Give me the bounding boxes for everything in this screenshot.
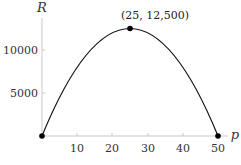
peak-label: (25, 12,500) <box>121 9 189 22</box>
ytick-5000: 5000 <box>10 87 38 100</box>
point-origin <box>39 133 45 139</box>
xtick-50: 50 <box>211 142 225 155</box>
xtick-20: 20 <box>105 142 119 155</box>
point-peak <box>127 26 133 32</box>
xtick-10: 10 <box>70 142 84 155</box>
revenue-curve <box>42 29 218 137</box>
xtick-40: 40 <box>176 142 190 155</box>
x-axis-label: p <box>231 127 240 142</box>
ytick-10000: 10000 <box>3 44 38 57</box>
revenue-chart: 5000 10000 10 20 30 40 50 R p (25, 12,50… <box>0 0 241 165</box>
y-axis-label: R <box>36 0 47 15</box>
point-end <box>215 133 221 139</box>
xtick-30: 30 <box>141 142 155 155</box>
